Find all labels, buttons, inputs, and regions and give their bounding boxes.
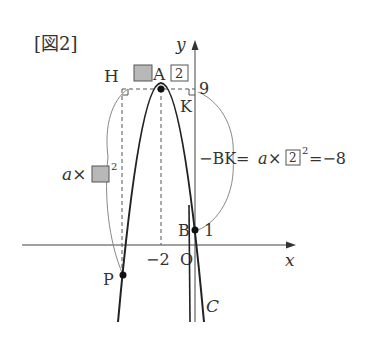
x-tick-minus2: −2	[146, 250, 170, 269]
svg-text:×: ×	[268, 149, 281, 168]
figure-title: [図2]	[34, 33, 78, 54]
origin-label: O	[180, 250, 193, 269]
y-tick-9: 9	[199, 79, 209, 98]
x-axis-label: x	[285, 250, 295, 270]
y-axis-label: y	[175, 34, 186, 54]
svg-text:2: 2	[111, 161, 117, 172]
svg-text:a: a	[258, 149, 268, 168]
point-B-label: B	[178, 221, 190, 240]
curve-label: C	[206, 296, 219, 316]
answer-box-2-value: 2	[175, 66, 183, 81]
left-annotation: a× 2	[62, 161, 117, 184]
svg-text:2: 2	[302, 145, 308, 156]
svg-text:=−8: =−8	[309, 149, 346, 168]
right-annotation: −BK= a × 2 2 =−8	[199, 145, 346, 168]
svg-text:2: 2	[289, 151, 297, 165]
gray-answer-box-left	[92, 166, 109, 182]
svg-text:−BK=: −BK=	[199, 149, 250, 168]
parabola-figure: [図2] x y O C A 2 H K 9	[0, 0, 372, 350]
point-A-label: A	[152, 64, 166, 84]
point-P-label: P	[103, 270, 114, 289]
x-axis	[22, 242, 296, 249]
point-B	[192, 227, 199, 234]
point-A	[158, 86, 165, 93]
y-tick-1: 1	[204, 221, 214, 240]
point-K-label: K	[180, 97, 193, 116]
point-H-label: H	[104, 66, 119, 86]
gray-answer-box	[134, 65, 152, 81]
svg-text:a×: a×	[62, 164, 86, 184]
y-axis	[192, 40, 199, 322]
point-P	[120, 272, 127, 279]
